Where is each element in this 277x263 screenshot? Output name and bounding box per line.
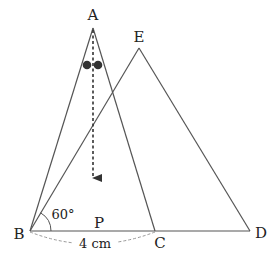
dot-right [94, 61, 103, 70]
angle-arc-icon [41, 213, 52, 231]
angle-label: 60° [51, 208, 74, 221]
label-d: D [255, 226, 267, 241]
length-label: 4 cm [79, 237, 111, 250]
label-c: C [154, 236, 165, 251]
dot-left [83, 61, 92, 70]
label-a: A [88, 8, 99, 23]
triangle-ebd [30, 48, 250, 231]
label-e: E [134, 30, 145, 45]
side-ed [139, 48, 250, 231]
label-p: P [94, 216, 104, 231]
label-b: B [13, 227, 24, 242]
side-eb [30, 48, 139, 231]
side-ab [30, 28, 93, 231]
